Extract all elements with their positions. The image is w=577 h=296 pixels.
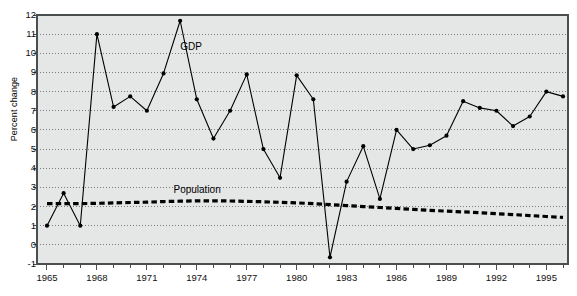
y-axis-tick-labels: -10123456789101112 [0, 0, 36, 296]
y-tick-label: 8 [14, 87, 36, 97]
x-tick-label: 1968 [86, 272, 107, 283]
x-axis-tick-labels: 1965196819711974197719801983198619891992… [0, 270, 577, 290]
y-tick-label: 11 [14, 29, 36, 39]
y-tick-label: 3 [14, 182, 36, 192]
x-tick-label: 1974 [186, 272, 207, 283]
y-tick-label: 5 [14, 144, 36, 154]
y-tick-label: 6 [14, 125, 36, 135]
y-tick-label: -1 [14, 259, 36, 269]
x-tick-label: 1989 [436, 272, 457, 283]
y-tick-label: 10 [14, 48, 36, 58]
series-label-gdp: GDP [180, 41, 202, 52]
x-tick-label: 1977 [236, 272, 257, 283]
x-tick-label: 1980 [286, 272, 307, 283]
y-tick-label: 0 [14, 240, 36, 250]
x-tick-label: 1995 [536, 272, 557, 283]
y-tick-label: 12 [14, 10, 36, 20]
percent-change-line-chart: Percent change -10123456789101112 196519… [0, 0, 577, 296]
x-tick-label: 1971 [136, 272, 157, 283]
x-tick-label: 1992 [486, 272, 507, 283]
x-tick-label: 1986 [386, 272, 407, 283]
x-tick-label: 1983 [336, 272, 357, 283]
y-tick-label: 9 [14, 67, 36, 77]
y-tick-label: 4 [14, 163, 36, 173]
y-tick-label: 2 [14, 202, 36, 212]
plot-area [0, 0, 577, 296]
y-tick-label: 7 [14, 106, 36, 116]
y-tick-label: 1 [14, 221, 36, 231]
x-tick-label: 1965 [36, 272, 57, 283]
series-label-population: Population [173, 184, 220, 195]
